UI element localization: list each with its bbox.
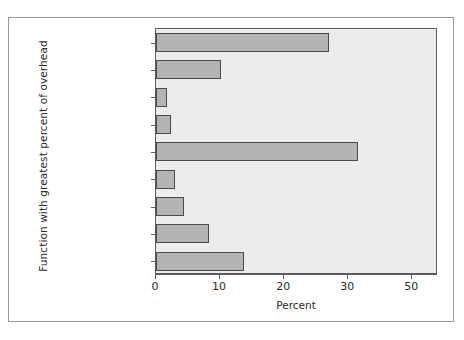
bar-row [156,166,436,193]
bar [156,252,244,271]
y-axis-tick [151,97,156,98]
x-axis-tick [283,274,284,279]
bar-row [156,138,436,165]
y-axis-tick [151,125,156,126]
bar-row [156,193,436,220]
bar-row [156,248,436,275]
x-axis-tick [219,274,220,279]
bar [156,170,175,189]
x-axis-tick-label: 30 [327,280,367,293]
x-axis-tick-label: 10 [199,280,239,293]
x-axis-title: Percent [155,299,437,311]
x-axis-tick [411,274,412,279]
x-axis-tick [347,274,348,279]
bar [156,224,209,243]
y-axis-tick [151,70,156,71]
x-axis-tick-label: 20 [263,280,303,293]
y-axis-tick [151,179,156,180]
bar [156,197,184,216]
bar [156,142,358,161]
bar [156,115,171,134]
bar-row [156,220,436,247]
bar [156,88,167,107]
figure: Function with greatest percent of overhe… [0,0,464,340]
x-axis-line [155,274,437,275]
y-axis-tick [151,207,156,208]
y-axis-title: Function with greatest percent of overhe… [37,31,49,281]
bar-row [156,84,436,111]
x-axis-tick-label: 50 [391,280,431,293]
bar [156,60,221,79]
bar-row [156,111,436,138]
x-axis-tick [155,274,156,279]
y-axis-tick [151,261,156,262]
bar-row [156,56,436,83]
x-axis-tick-label: 0 [135,280,175,293]
y-axis-tick [151,152,156,153]
bar-row [156,29,436,56]
plot-area [155,28,437,274]
bar [156,33,329,52]
y-axis-tick [151,234,156,235]
y-axis-tick [151,43,156,44]
